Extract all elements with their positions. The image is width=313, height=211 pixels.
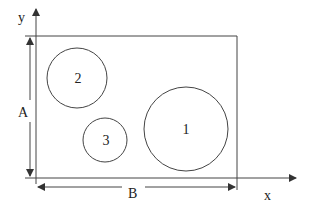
y-axis-label: y xyxy=(18,10,25,25)
x-axis: x xyxy=(36,178,296,203)
dimension-a: A xyxy=(18,38,30,176)
circle-2-label: 2 xyxy=(75,71,82,86)
dimension-b: B xyxy=(38,186,235,201)
x-axis-label: x xyxy=(264,188,271,203)
circle-1-label: 1 xyxy=(183,122,190,137)
circle-3: 3 xyxy=(83,118,127,162)
dimension-a-label: A xyxy=(18,105,29,120)
circle-3-label: 3 xyxy=(103,133,110,148)
circle-1: 1 xyxy=(144,87,228,171)
rectangle-circles-diagram: y x A B 1 xyxy=(0,0,313,211)
circle-2: 2 xyxy=(47,48,107,108)
y-axis: y xyxy=(18,9,36,184)
dimension-b-label: B xyxy=(128,186,137,201)
diagram-canvas: y x A B 1 xyxy=(0,0,313,211)
